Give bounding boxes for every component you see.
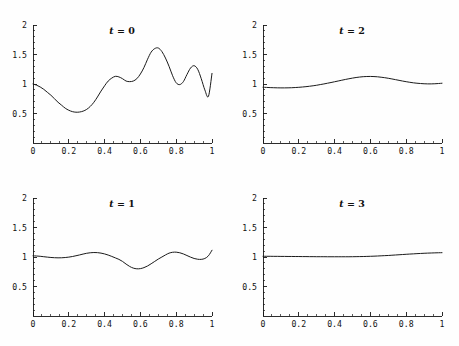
y-ticklabel: 1 bbox=[22, 79, 27, 89]
x-ticklabel: 0 bbox=[261, 146, 266, 156]
y-ticklabel-group: 0.511.52 bbox=[242, 20, 257, 119]
x-tick-group bbox=[263, 139, 442, 143]
x-ticklabel: 0.4 bbox=[327, 319, 342, 329]
y-ticklabel: 0.5 bbox=[12, 109, 27, 119]
plot-panel-t3: 00.20.40.60.81 0.511.52 t = 3 bbox=[230, 173, 459, 346]
x-ticklabel: 0.4 bbox=[327, 146, 342, 156]
x-tick-group bbox=[263, 312, 442, 316]
x-ticklabel: 0.2 bbox=[61, 146, 76, 156]
x-ticklabel: 0.4 bbox=[97, 146, 112, 156]
x-ticklabel: 0.6 bbox=[133, 319, 148, 329]
panel-title-t3: t = 3 bbox=[339, 198, 365, 209]
x-ticklabel: 0.6 bbox=[363, 146, 378, 156]
y-ticklabel: 0.5 bbox=[242, 282, 257, 292]
y-ticklabel: 1 bbox=[22, 252, 27, 262]
panel-title-value: = 0 bbox=[114, 25, 136, 36]
panel-title-value: = 3 bbox=[344, 198, 365, 209]
y-ticklabel: 1.5 bbox=[12, 223, 27, 233]
y-ticklabel: 0.5 bbox=[242, 109, 257, 119]
y-tick-group bbox=[33, 25, 37, 137]
panel-title-t2: t = 2 bbox=[339, 25, 365, 36]
x-ticklabel: 0.8 bbox=[399, 319, 414, 329]
y-ticklabel: 1.5 bbox=[242, 223, 257, 233]
x-ticklabel: 0.2 bbox=[291, 146, 306, 156]
y-ticklabel: 1.5 bbox=[12, 50, 27, 60]
panel-title-value: = 1 bbox=[114, 198, 135, 209]
y-ticklabel: 1.5 bbox=[242, 50, 257, 60]
y-ticklabel: 2 bbox=[22, 193, 27, 203]
plot-svg-t2: 00.20.40.60.81 0.511.52 t = 2 bbox=[230, 0, 459, 173]
plot-panel-t2: 00.20.40.60.81 0.511.52 t = 2 bbox=[230, 0, 459, 173]
four-panel-plot-figure: 00.20.40.60.81 0.511.52 t = 0 00.20.40.6… bbox=[0, 0, 459, 346]
data-curve-t3 bbox=[263, 253, 442, 257]
x-ticklabel-group: 00.20.40.60.81 bbox=[31, 319, 215, 329]
x-ticklabel: 0 bbox=[31, 319, 36, 329]
y-ticklabel: 0.5 bbox=[12, 282, 27, 292]
axes-t1 bbox=[33, 198, 212, 316]
x-ticklabel: 0.6 bbox=[363, 319, 378, 329]
y-ticklabel: 1 bbox=[252, 79, 257, 89]
x-ticklabel: 0 bbox=[261, 319, 266, 329]
data-curve-t2 bbox=[263, 76, 442, 87]
plot-svg-t0: 00.20.40.60.81 0.511.52 t = 0 bbox=[0, 0, 229, 173]
panel-title-t0: t = 0 bbox=[109, 25, 135, 36]
plot-panel-t0: 00.20.40.60.81 0.511.52 t = 0 bbox=[0, 0, 229, 173]
data-curve-t1 bbox=[33, 250, 212, 269]
y-tick-group bbox=[263, 198, 267, 310]
x-ticklabel: 0.8 bbox=[399, 146, 414, 156]
x-ticklabel-group: 00.20.40.60.81 bbox=[261, 146, 445, 156]
panel-title-value: = 2 bbox=[344, 25, 365, 36]
x-ticklabel: 0.8 bbox=[169, 146, 184, 156]
data-curve-t0 bbox=[33, 48, 212, 112]
plot-svg-t1: 00.20.40.60.81 0.511.52 t = 1 bbox=[0, 173, 229, 346]
x-ticklabel: 0.8 bbox=[169, 319, 184, 329]
x-ticklabel: 1 bbox=[210, 146, 215, 156]
y-tick-group bbox=[263, 25, 267, 137]
x-ticklabel: 1 bbox=[440, 146, 445, 156]
axes-t2 bbox=[263, 25, 442, 143]
x-ticklabel: 1 bbox=[440, 319, 445, 329]
x-ticklabel: 0.6 bbox=[133, 146, 148, 156]
y-ticklabel: 2 bbox=[22, 20, 27, 30]
x-tick-group bbox=[33, 312, 212, 316]
y-ticklabel-group: 0.511.52 bbox=[12, 193, 27, 292]
x-ticklabel-group: 00.20.40.60.81 bbox=[31, 146, 215, 156]
y-ticklabel-group: 0.511.52 bbox=[242, 193, 257, 292]
x-ticklabel: 0.2 bbox=[291, 319, 306, 329]
x-ticklabel-group: 00.20.40.60.81 bbox=[261, 319, 445, 329]
y-ticklabel-group: 0.511.52 bbox=[12, 20, 27, 119]
y-ticklabel: 2 bbox=[252, 20, 257, 30]
x-ticklabel: 0.2 bbox=[61, 319, 76, 329]
plot-svg-t3: 00.20.40.60.81 0.511.52 t = 3 bbox=[230, 173, 459, 346]
x-ticklabel: 1 bbox=[210, 319, 215, 329]
x-tick-group bbox=[33, 139, 212, 143]
y-ticklabel: 1 bbox=[252, 252, 257, 262]
axes-t0 bbox=[33, 25, 212, 143]
y-tick-group bbox=[33, 198, 37, 310]
x-ticklabel: 0.4 bbox=[97, 319, 112, 329]
panel-title-t1: t = 1 bbox=[109, 198, 135, 209]
plot-panel-t1: 00.20.40.60.81 0.511.52 t = 1 bbox=[0, 173, 229, 346]
x-ticklabel: 0 bbox=[31, 146, 36, 156]
y-ticklabel: 2 bbox=[252, 193, 257, 203]
